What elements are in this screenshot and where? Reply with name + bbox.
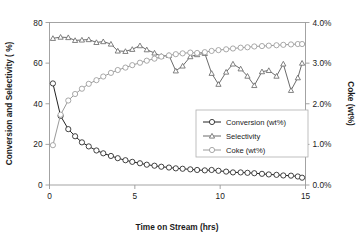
y-axis-right-tick-label: 0.0% [313, 180, 333, 190]
y-axis-right-title: Coke (wt%) [346, 81, 356, 126]
data-point-marker [130, 47, 135, 52]
data-point-marker [252, 44, 257, 49]
data-point-marker [224, 47, 229, 52]
x-axis-tick-label: 0 [47, 191, 52, 201]
data-point-marker [259, 43, 264, 48]
data-point-marker [202, 168, 207, 173]
data-point-marker [259, 171, 264, 176]
data-point-marker [50, 143, 55, 148]
data-series-group [50, 35, 304, 181]
data-point-marker [266, 43, 271, 48]
data-point-marker [79, 86, 84, 91]
data-point-marker [202, 50, 207, 55]
data-point-marker [252, 171, 257, 176]
data-point-marker [137, 43, 142, 48]
x-axis-title: Time on Stream (hrs) [136, 222, 219, 232]
data-point-marker [209, 48, 214, 53]
data-point-marker [230, 170, 235, 175]
data-point-marker [209, 167, 214, 172]
data-point-marker [86, 81, 91, 86]
data-point-marker [137, 60, 142, 65]
x-axis-tick-label: 5 [133, 191, 138, 201]
legend-item-label[interactable]: Coke (wt%) [226, 146, 266, 155]
data-point-marker [180, 51, 185, 56]
chart-container: 020406080 0.0%1.0%2.0%3.0%4.0% 051015 Co… [0, 0, 357, 238]
y-axis-left-tick-label: 80 [33, 18, 43, 28]
y-axis-left-tick-label: 0 [38, 180, 43, 190]
y-axis-left-tick-labels: 020406080 [33, 18, 43, 191]
y-axis-right-tick-label: 1.0% [313, 139, 333, 149]
data-point-marker [180, 166, 185, 171]
data-point-marker [159, 54, 164, 59]
data-point-marker [288, 42, 293, 47]
data-point-marker [101, 151, 106, 156]
data-point-marker [166, 53, 171, 58]
data-point-marker [266, 68, 271, 73]
data-point-marker [281, 42, 286, 47]
data-point-marker [230, 46, 235, 51]
data-point-marker [66, 98, 71, 103]
data-point-marker [216, 82, 221, 87]
legend-item-label[interactable]: Selectivity [226, 132, 260, 141]
data-point-marker [288, 173, 293, 178]
x-axis-ticks [50, 185, 306, 189]
data-point-marker [73, 91, 78, 96]
data-point-marker [101, 74, 106, 79]
data-point-marker [274, 43, 279, 48]
data-point-marker [224, 169, 229, 174]
data-point-marker [188, 50, 193, 55]
data-point-marker [195, 167, 200, 172]
data-point-marker [230, 61, 235, 66]
y-axis-left-tick-label: 40 [33, 99, 43, 109]
data-point-marker [299, 41, 304, 46]
data-point-marker [281, 61, 286, 66]
legend-item-label[interactable]: Conversion (wt%) [226, 118, 286, 127]
data-point-marker [123, 65, 128, 70]
y-axis-right-ticks [306, 23, 310, 186]
chart-plot: 020406080 0.0%1.0%2.0%3.0%4.0% 051015 Co… [0, 0, 357, 238]
data-point-marker [130, 159, 135, 164]
data-point-marker [66, 127, 71, 132]
y-axis-right-tick-label: 4.0% [313, 18, 333, 28]
data-point-marker [209, 147, 214, 152]
data-point-marker [245, 45, 250, 50]
data-point-marker [108, 153, 113, 158]
data-point-marker [144, 162, 149, 167]
data-point-marker [266, 172, 271, 177]
data-point-marker [281, 173, 286, 178]
y-axis-left-title: Conversion and Selectivity ( %) [4, 41, 14, 165]
data-point-marker [295, 75, 300, 80]
data-point-marker [195, 50, 200, 55]
data-point-marker [274, 172, 279, 177]
data-point-marker [79, 140, 84, 145]
data-point-marker [94, 148, 99, 153]
data-point-marker [238, 170, 243, 175]
data-point-marker [152, 163, 157, 168]
x-axis-tick-label: 15 [301, 191, 311, 201]
x-axis-tick-label: 10 [216, 191, 226, 201]
data-point-marker [209, 119, 214, 124]
y-axis-left-tick-label: 20 [33, 139, 43, 149]
data-point-marker [166, 165, 171, 170]
data-point-marker [86, 144, 91, 149]
data-point-marker [209, 71, 214, 76]
data-point-marker [108, 70, 113, 75]
chart-legend: Conversion (wt%)SelectivityCoke (wt%) [196, 110, 308, 157]
data-point-marker [152, 56, 157, 61]
data-point-marker [188, 167, 193, 172]
y-axis-left-ticks [46, 23, 50, 186]
data-point-marker [73, 134, 78, 139]
data-point-marker [238, 66, 243, 71]
data-point-marker [144, 58, 149, 63]
data-point-marker [50, 81, 55, 86]
data-point-marker [94, 78, 99, 83]
data-point-marker [159, 164, 164, 169]
y-axis-right-tick-label: 2.0% [313, 99, 333, 109]
data-point-marker [173, 166, 178, 171]
data-point-marker [216, 168, 221, 173]
y-axis-left-tick-label: 60 [33, 58, 43, 68]
y-axis-right-tick-labels: 0.0%1.0%2.0%3.0%4.0% [313, 18, 333, 191]
data-point-marker [58, 112, 63, 117]
data-point-marker [216, 48, 221, 53]
data-point-marker [288, 88, 293, 93]
